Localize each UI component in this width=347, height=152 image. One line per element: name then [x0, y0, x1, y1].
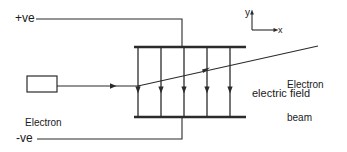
- coordinate-axes: [250, 10, 278, 32]
- electron-gun-label: Electron gun: [25, 95, 62, 152]
- electron-beam-label-line2: beam: [287, 112, 324, 123]
- diagram-canvas: +ve -ve Electron gun Electron beam elect…: [0, 0, 347, 152]
- electron-gun-label-line1: Electron: [25, 117, 62, 128]
- y-axis-label: y: [245, 7, 250, 18]
- field-arrow-icon: [158, 87, 163, 94]
- electron-gun-label-line2: gun: [25, 150, 62, 152]
- electron-beam-label: Electron beam: [287, 57, 324, 145]
- electric-field-lines: [135, 47, 232, 117]
- positive-terminal-wire: [36, 19, 182, 47]
- positive-terminal-label: +ve: [15, 13, 35, 24]
- field-arrow-icon: [227, 87, 232, 94]
- field-arrow-icon: [204, 87, 209, 94]
- x-axis-label: x: [278, 25, 283, 36]
- y-axis-arrow-icon: [250, 10, 254, 15]
- field-arrow-icon: [181, 87, 186, 94]
- electron-gun-box: [27, 76, 57, 92]
- electric-field-label: electric field: [252, 88, 310, 99]
- field-arrow-icon: [135, 87, 140, 94]
- incoming-beam-arrow-icon: [110, 83, 117, 89]
